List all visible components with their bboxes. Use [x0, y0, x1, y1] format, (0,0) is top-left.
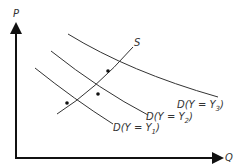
x-axis-label: Q [225, 153, 233, 163]
diagram-canvas [0, 0, 241, 167]
demand-label-y1: D(Y = Y1) [113, 123, 160, 136]
point-y1 [65, 101, 69, 105]
supply-label: S [134, 38, 140, 48]
demand-label-text: D(Y = Y [113, 122, 152, 133]
demand-curve-y3 [68, 34, 218, 97]
supply-demand-diagram: P Q S D(Y = Y3) D(Y = Y2) D(Y = Y1) [0, 0, 241, 167]
y-axis-label: P [13, 9, 19, 19]
point-y2 [96, 92, 100, 96]
point-y3 [106, 69, 110, 73]
demand-label-close: ) [156, 122, 160, 133]
demand-label-text: D(Y = Y [146, 111, 185, 122]
demand-label-text: D(Y = Y [177, 99, 216, 110]
demand-curve-y2 [51, 51, 148, 115]
demand-curve-y1 [35, 68, 113, 124]
demand-label-close: ) [189, 111, 193, 122]
demand-label-close: ) [220, 99, 224, 110]
